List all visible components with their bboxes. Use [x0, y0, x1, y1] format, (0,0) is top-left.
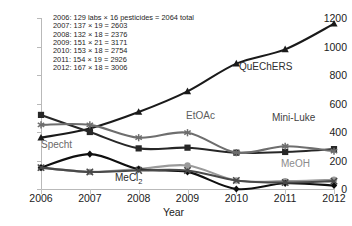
series-label-quechers: QuEChERS	[239, 61, 292, 72]
data-point-marker	[87, 129, 93, 135]
data-point-marker	[184, 145, 190, 151]
series-label-specht: Specht	[41, 139, 72, 150]
data-point-marker	[38, 112, 44, 118]
series-label-mecl2: MeCl2	[115, 172, 143, 186]
data-point-marker	[136, 145, 142, 151]
series-label-meoh: MeOH	[281, 158, 310, 169]
series-label-mini-luke: Mini-Luke	[272, 112, 315, 123]
mecl2-prefix: MeCl	[115, 172, 138, 183]
series-label-etoac: EtOAc	[186, 110, 215, 121]
data-point-marker	[233, 185, 239, 192]
mecl2-subscript: 2	[138, 177, 142, 186]
data-point-marker	[87, 150, 93, 157]
data-point-marker	[330, 20, 337, 27]
